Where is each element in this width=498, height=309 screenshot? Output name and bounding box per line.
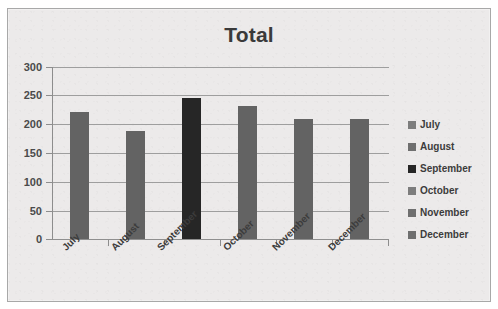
legend-item-november[interactable]: November [408, 203, 496, 222]
gridline-250 [52, 95, 389, 96]
y-tick-300 [46, 67, 52, 68]
y-tick-100 [46, 182, 52, 183]
y-tick-0 [46, 239, 52, 240]
chart-screenshot: Total 300 250 200 150 100 50 0 [0, 0, 498, 309]
legend-swatch-icon [408, 121, 416, 129]
legend-swatch-icon [408, 165, 416, 173]
y-tick-50 [46, 211, 52, 212]
x-tick-5 [388, 240, 389, 246]
y-axis-label-0: 0 [8, 234, 42, 245]
legend-swatch-icon [408, 187, 416, 195]
legend-label-october: October [420, 186, 458, 196]
gridline-200 [52, 124, 389, 125]
y-tick-250 [46, 95, 52, 96]
legend-label-december: December [420, 230, 468, 240]
y-axis-label-100: 100 [8, 177, 42, 188]
legend-swatch-icon [408, 209, 416, 217]
y-axis-label-50: 50 [8, 206, 42, 217]
gridline-150 [52, 153, 389, 154]
bar-july[interactable] [70, 112, 89, 239]
legend-label-september: September [420, 164, 472, 174]
y-tick-150 [46, 153, 52, 154]
chart-legend: July August September October November D… [408, 115, 496, 247]
legend-label-july: July [420, 120, 440, 130]
gridline-50 [52, 211, 389, 212]
value-axis-line [52, 67, 53, 240]
legend-item-december[interactable]: December [408, 225, 496, 244]
legend-item-july[interactable]: July [408, 115, 496, 134]
y-axis-label-300: 300 [8, 62, 42, 73]
y-axis-label-200: 200 [8, 119, 42, 130]
y-axis-label-150: 150 [8, 148, 42, 159]
legend-swatch-icon [408, 143, 416, 151]
gridline-100 [52, 182, 389, 183]
legend-label-august: August [420, 142, 454, 152]
legend-label-november: November [420, 208, 469, 218]
y-tick-200 [46, 124, 52, 125]
gridline-300 [52, 67, 389, 68]
y-axis-label-250: 250 [8, 90, 42, 101]
chart-frame: Total 300 250 200 150 100 50 0 [7, 8, 491, 302]
legend-swatch-icon [408, 231, 416, 239]
legend-item-october[interactable]: October [408, 181, 496, 200]
chart-title: Total [8, 23, 490, 47]
legend-item-august[interactable]: August [408, 137, 496, 156]
legend-item-september[interactable]: September [408, 159, 496, 178]
